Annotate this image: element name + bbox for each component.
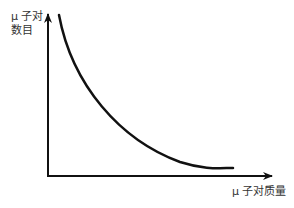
chart-canvas bbox=[0, 0, 294, 208]
x-axis-label: μ 子对质量 bbox=[232, 182, 287, 198]
y-axis-label: μ 子对 数目 bbox=[11, 10, 44, 38]
y-axis-label-line2: 数目 bbox=[11, 24, 44, 38]
decay-curve bbox=[59, 15, 233, 168]
y-axis-label-line1: μ 子对 bbox=[11, 10, 44, 24]
